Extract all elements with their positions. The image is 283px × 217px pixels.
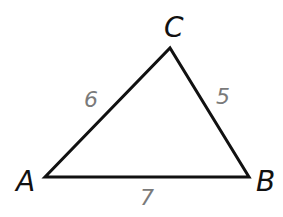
triangle-diagram: C A B 6 5 7 [0, 0, 283, 217]
vertex-label-c: C [164, 14, 184, 42]
side-label-ab: 7 [140, 187, 154, 209]
vertex-label-b: B [256, 168, 275, 196]
side-label-cb: 5 [216, 86, 230, 108]
vertex-label-a: A [16, 168, 35, 196]
side-label-ac: 6 [84, 89, 98, 111]
triangle-outline [45, 48, 249, 177]
